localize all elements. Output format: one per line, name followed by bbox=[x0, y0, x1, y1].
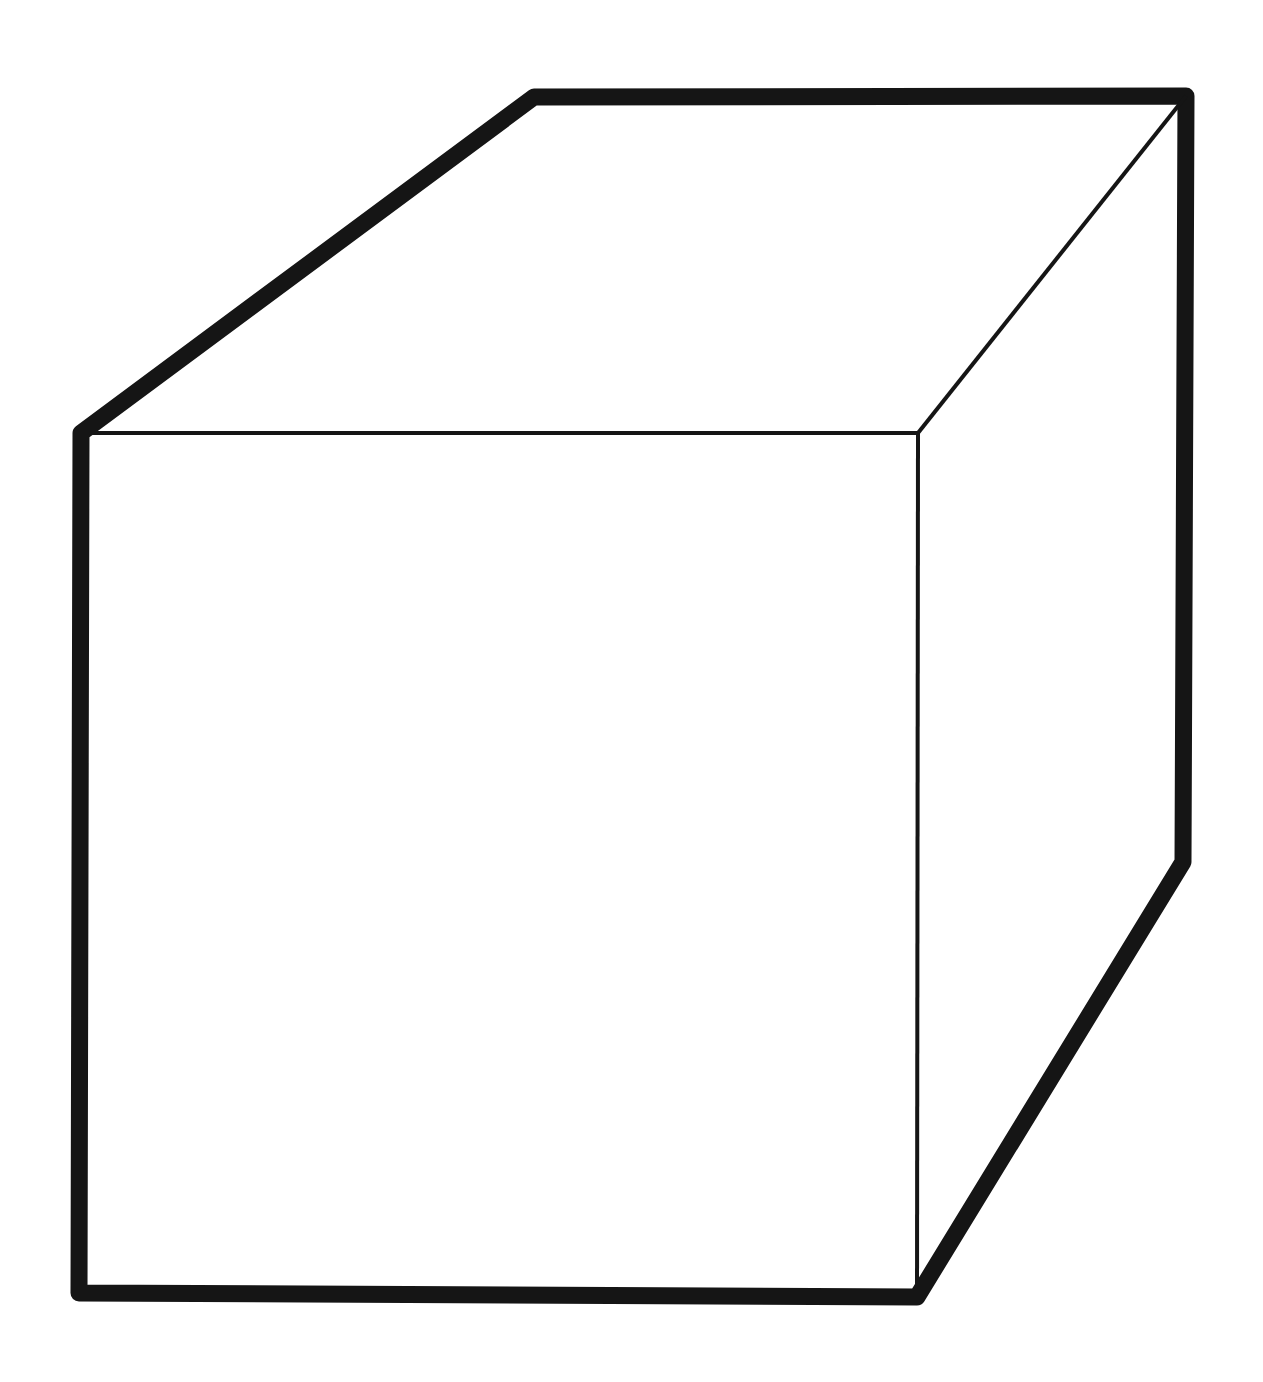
cube-silhouette-outline bbox=[79, 96, 1186, 1297]
front-face-right-edge bbox=[917, 433, 918, 1297]
cube-drawing bbox=[0, 0, 1263, 1382]
page: { "page": { "background_color": "#ffffff… bbox=[0, 0, 1263, 1382]
drawing-canvas bbox=[0, 0, 1263, 1382]
